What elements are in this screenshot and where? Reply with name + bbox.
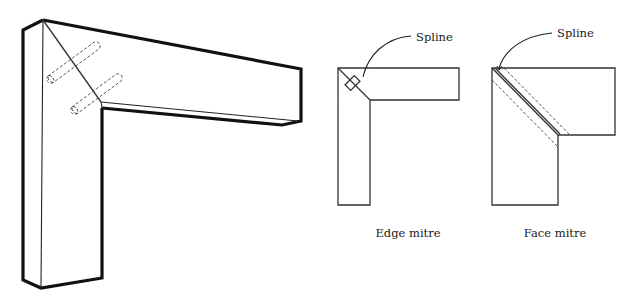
spline-dashed-upper bbox=[504, 68, 569, 134]
isometric-mitre-joint bbox=[23, 20, 301, 288]
spline-callout-arrow bbox=[363, 36, 411, 77]
vertical-arm-outline bbox=[23, 20, 102, 288]
spline-dashed-lower bbox=[492, 80, 558, 147]
face-mitre-spline-label: Spline bbox=[557, 26, 594, 40]
face-mitre-line bbox=[492, 68, 558, 135]
edge-mitre-outline bbox=[338, 68, 459, 205]
face-mitre-caption: Face mitre bbox=[524, 226, 587, 240]
face-mitre-line-2 bbox=[495, 68, 560, 134]
edge-mitre-spline-label: Spline bbox=[416, 30, 453, 44]
edge-mitre-caption: Edge mitre bbox=[375, 226, 440, 240]
mitre-joints-diagram: Spline Edge mitre Spline Face mitre bbox=[0, 0, 635, 294]
edge-mitre-line bbox=[338, 68, 370, 100]
inner-corner-edge bbox=[101, 102, 102, 108]
spline-callout-arrow bbox=[499, 33, 552, 68]
vertical-arm-front-edge bbox=[41, 20, 43, 288]
edge-mitre-diagram: Spline Edge mitre bbox=[338, 30, 459, 240]
mitre-line bbox=[43, 20, 101, 102]
face-mitre-diagram: Spline Face mitre bbox=[492, 26, 615, 240]
face-mitre-outline bbox=[492, 68, 615, 205]
